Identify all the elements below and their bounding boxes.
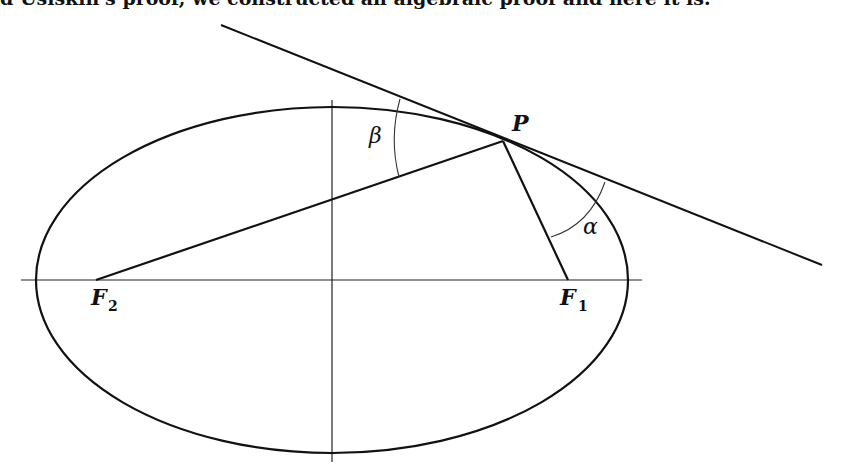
label-f1-subscript: 1 (578, 298, 588, 314)
label-p: P (511, 110, 530, 136)
segment-f2-p (96, 141, 503, 280)
ellipse-diagram: P β α F 2 F 1 (0, 0, 842, 471)
label-beta: β (368, 123, 382, 148)
label-alpha: α (583, 214, 598, 239)
label-f2: F (90, 284, 108, 310)
label-f2-subscript: 2 (108, 298, 118, 314)
segment-p-f1 (503, 141, 568, 280)
tangent-line (221, 25, 822, 265)
label-f1: F (559, 284, 577, 310)
